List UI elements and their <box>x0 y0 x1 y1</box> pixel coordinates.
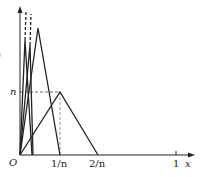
y-axis-arrow-icon <box>18 6 23 13</box>
y-tick-n-label: n <box>10 86 16 97</box>
x-axis-label: x <box>185 158 191 169</box>
triangle-tall-1-dashed-top <box>25 12 26 40</box>
x-tick-one-label: 1 <box>173 158 179 169</box>
sequence-diagram: ) O n 1/n 2/n 1 x <box>0 0 201 177</box>
origin-label: O <box>9 157 17 168</box>
x-tick-1-over-n-label: 1/n <box>51 158 68 169</box>
triangle-tall-2-dashed-top <box>30 14 31 45</box>
x-axis-arrow-icon <box>188 153 195 158</box>
cropped-paren: ) <box>0 49 1 60</box>
x-tick-2-over-n-label: 2/n <box>89 158 106 169</box>
